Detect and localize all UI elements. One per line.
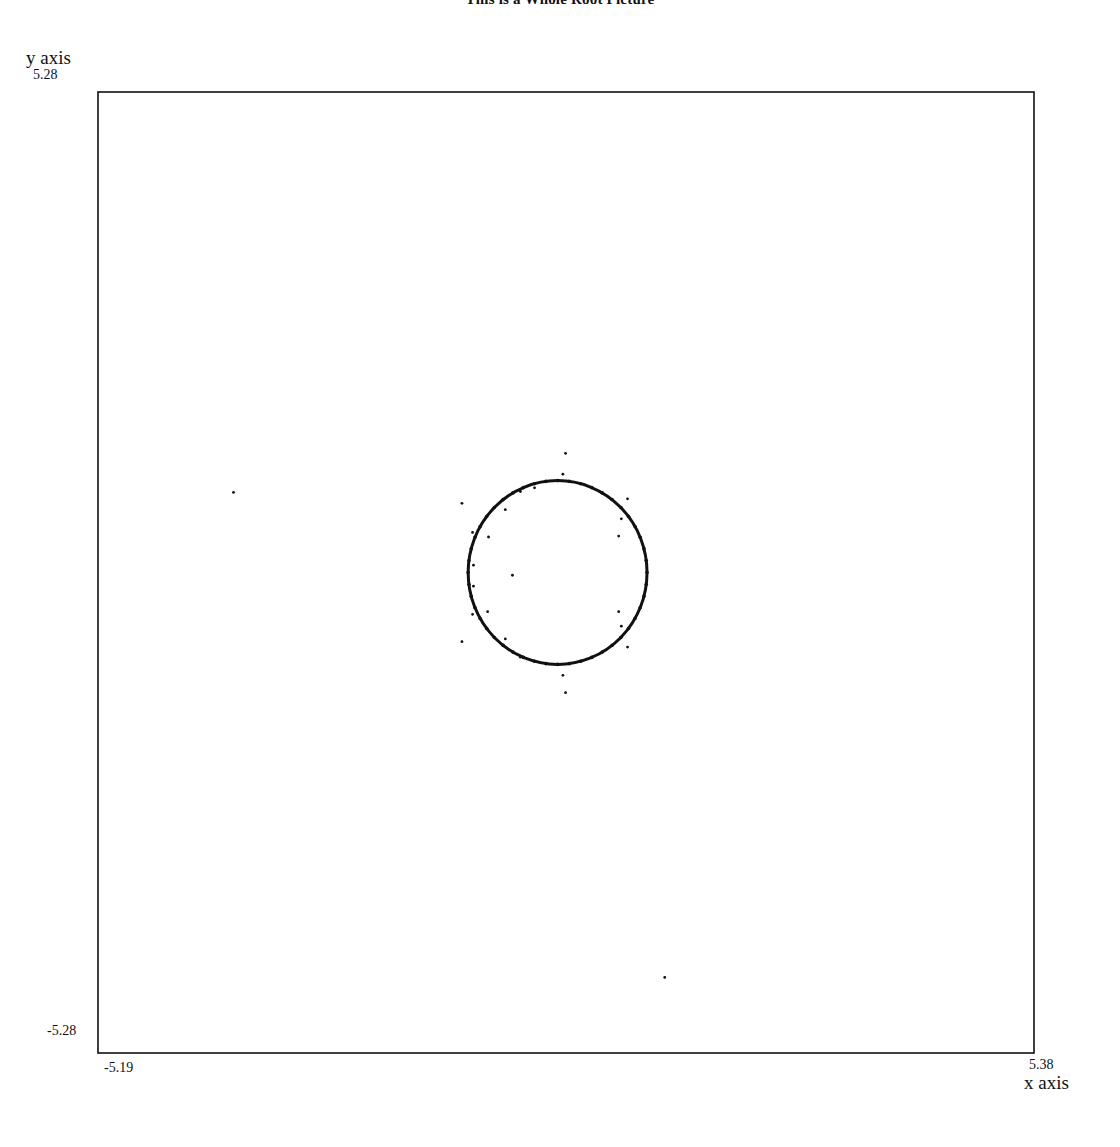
root-point <box>486 610 489 613</box>
root-point <box>619 636 623 640</box>
root-point <box>471 531 474 534</box>
root-point <box>579 482 583 486</box>
root-point <box>473 606 477 610</box>
root-point <box>642 547 646 551</box>
root-point <box>642 594 646 598</box>
plot-area <box>0 0 1120 1147</box>
root-point <box>556 663 560 667</box>
root-point <box>610 498 614 502</box>
root-point <box>485 515 489 519</box>
root-point <box>467 583 471 587</box>
root-point <box>590 486 594 490</box>
root-point <box>638 606 642 610</box>
root-point <box>617 610 620 613</box>
root-point <box>567 480 571 484</box>
root-point <box>633 525 637 529</box>
root-point <box>232 491 235 494</box>
root-point <box>617 535 620 538</box>
root-point <box>511 574 514 577</box>
root-point <box>564 452 567 455</box>
root-point <box>461 640 464 643</box>
root-point <box>562 473 565 476</box>
root-point <box>601 491 605 495</box>
root-point <box>472 585 475 588</box>
root-point <box>638 536 642 540</box>
root-point <box>620 625 623 628</box>
root-point <box>466 571 470 575</box>
root-point <box>504 638 507 641</box>
root-point <box>472 564 475 567</box>
root-point <box>501 498 505 502</box>
root-point <box>626 497 629 500</box>
root-point <box>533 659 537 663</box>
root-point <box>544 662 548 666</box>
root-point <box>485 627 489 631</box>
root-point <box>493 506 497 510</box>
root-point <box>522 486 526 490</box>
root-point <box>663 976 666 979</box>
root-point <box>633 617 637 621</box>
root-point <box>533 482 537 486</box>
root-point <box>626 646 629 649</box>
root-point <box>544 480 548 484</box>
root-point <box>590 656 594 660</box>
root-point <box>478 617 482 621</box>
root-point <box>610 644 614 648</box>
root-point <box>620 517 623 520</box>
root-point <box>493 636 497 640</box>
root-circle <box>466 479 648 666</box>
root-point <box>556 479 560 483</box>
root-point <box>627 515 631 519</box>
root-point <box>469 547 473 551</box>
root-point <box>473 536 477 540</box>
isolated-root-points <box>232 452 666 979</box>
root-point <box>467 559 471 563</box>
root-point <box>504 508 507 511</box>
root-point <box>501 644 505 648</box>
root-point <box>487 536 490 539</box>
root-point <box>478 525 482 529</box>
root-point <box>519 656 522 659</box>
plot-frame <box>98 92 1034 1053</box>
root-point <box>645 571 649 575</box>
root-point <box>627 627 631 631</box>
root-point <box>567 662 571 666</box>
root-point <box>533 486 536 489</box>
root-point <box>579 659 583 663</box>
root-point <box>522 656 526 660</box>
root-point <box>601 650 605 654</box>
root-point <box>519 490 522 493</box>
root-point <box>469 594 473 598</box>
root-point <box>562 674 565 677</box>
root-point <box>511 650 515 654</box>
root-point <box>461 502 464 505</box>
root-point <box>471 613 474 616</box>
root-point <box>619 506 623 510</box>
root-point <box>511 491 515 495</box>
root-point <box>564 691 567 694</box>
root-point <box>644 559 648 563</box>
root-point <box>644 583 648 587</box>
